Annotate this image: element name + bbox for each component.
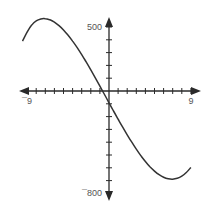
y-axis-top-arrow xyxy=(105,17,113,27)
axes xyxy=(19,17,201,201)
y-tick-label: ¯800 xyxy=(81,188,102,198)
x-tick-label: 9 xyxy=(188,96,193,106)
x-axis-right-arrow xyxy=(191,87,201,95)
x-tick-label: ¯9 xyxy=(21,96,32,106)
y-tick-label: 500 xyxy=(87,22,102,32)
tick-labels: ¯99500¯800 xyxy=(21,22,193,198)
y-axis-bottom-arrow xyxy=(105,191,113,201)
chart: ¯99500¯800 xyxy=(0,0,210,218)
